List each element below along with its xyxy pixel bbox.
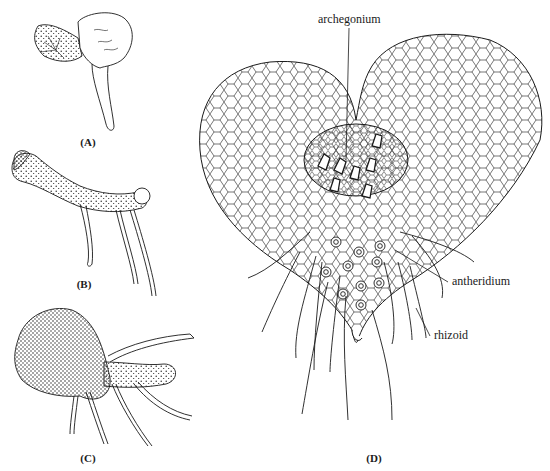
panel-c-drawing — [15, 308, 194, 446]
panel-label-c: (C) — [68, 452, 108, 464]
panel-b-drawing — [12, 151, 156, 296]
panel-label-d: (D) — [354, 452, 394, 464]
panel-d-drawing — [200, 34, 542, 420]
rhizoid-leader — [416, 308, 430, 336]
panel-label-a: (A) — [68, 136, 108, 148]
archegonium-label: archegonium — [318, 12, 381, 27]
rhizoid-label: rhizoid — [434, 328, 468, 343]
panel-a-drawing — [35, 13, 133, 131]
panel-label-b: (B) — [64, 278, 104, 290]
fern-gametophyte-figure: archegonium antheridium rhizoid (A) (B) … — [0, 0, 550, 471]
illustration-canvas — [0, 0, 550, 471]
antheridium-label: antheridium — [452, 274, 510, 289]
